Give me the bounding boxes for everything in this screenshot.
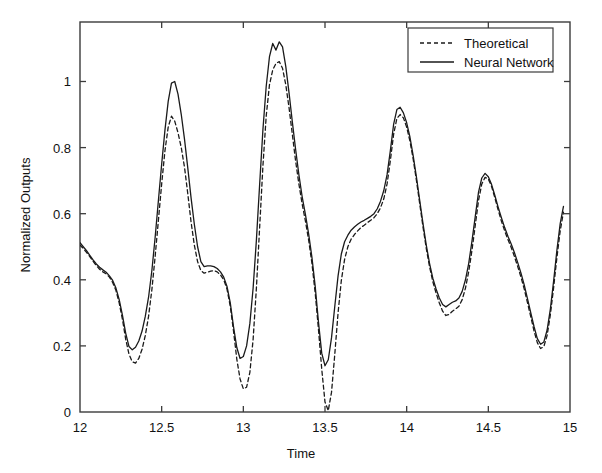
x-tick-label: 13.5 xyxy=(312,420,337,435)
y-tick-label: 0.8 xyxy=(53,141,71,156)
x-tick-label: 12.5 xyxy=(149,420,174,435)
y-tick-label: 0 xyxy=(64,405,71,420)
series-line-theoretical xyxy=(80,62,563,411)
chart-figure: 1212.51313.51414.51500.20.40.60.81Theore… xyxy=(0,0,602,473)
y-tick-label: 1 xyxy=(64,74,71,89)
y-tick-label: 0.2 xyxy=(53,339,71,354)
x-axis-label: Time xyxy=(0,446,602,461)
plot-frame xyxy=(80,22,570,412)
y-tick-label: 0.4 xyxy=(53,273,71,288)
x-tick-label: 14.5 xyxy=(476,420,501,435)
x-tick-label: 15 xyxy=(563,420,577,435)
x-tick-label: 14 xyxy=(399,420,413,435)
legend-label-theoretical: Theoretical xyxy=(464,36,528,51)
x-tick-label: 12 xyxy=(73,420,87,435)
y-axis-label-wrap: Normalized Outputs xyxy=(14,0,36,473)
data-series-group xyxy=(80,42,563,411)
y-tick-label: 0.6 xyxy=(53,207,71,222)
legend-label-neural-network: Neural Network xyxy=(464,55,554,70)
series-line-neural-network xyxy=(80,42,563,366)
y-axis-label: Normalized Outputs xyxy=(18,158,33,273)
plot-canvas: 1212.51313.51414.51500.20.40.60.81Theore… xyxy=(0,0,602,473)
x-tick-label: 13 xyxy=(236,420,250,435)
